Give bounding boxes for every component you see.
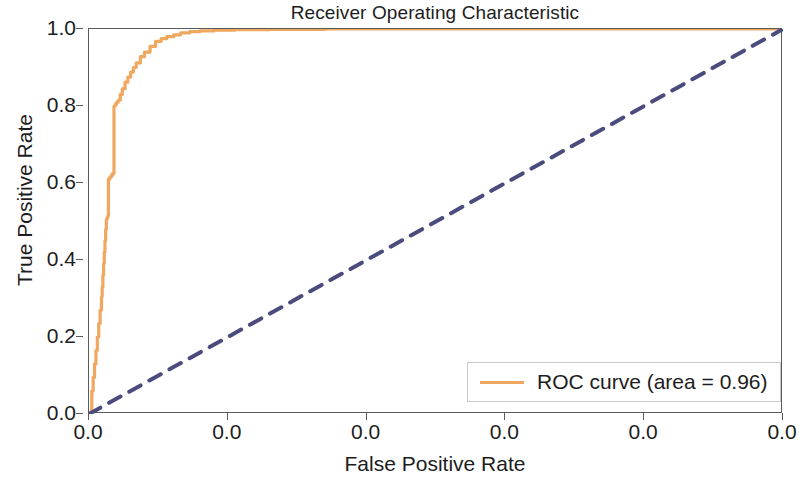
x-tick-mark — [366, 413, 367, 420]
x-tick-mark — [88, 413, 89, 420]
x-tick-mark — [643, 413, 644, 420]
y-tick-mark — [76, 182, 83, 183]
x-tick-label: 0.0 — [48, 420, 128, 444]
y-tick-mark — [76, 105, 83, 106]
chart-title: Receiver Operating Characteristic — [88, 2, 782, 24]
x-tick-label: 0.0 — [742, 420, 800, 444]
y-axis-tick-labels: 0.00.20.40.60.81.0 — [14, 28, 76, 413]
y-tick-label: 0.2 — [20, 324, 76, 348]
legend-line-swatch-roc-curve — [480, 381, 524, 384]
plot-svg — [89, 29, 783, 414]
x-axis-tick-labels: 0.00.00.00.00.00.0 — [88, 420, 782, 450]
x-tick-mark — [227, 413, 228, 420]
y-tick-label: 0.4 — [20, 247, 76, 271]
y-tick-label: 1.0 — [20, 16, 76, 40]
roc-chart-figure: Receiver Operating Characteristic True P… — [0, 0, 800, 483]
plot-area — [88, 28, 782, 413]
y-tick-mark — [76, 413, 83, 414]
x-tick-label: 0.0 — [464, 420, 544, 444]
y-tick-label: 0.8 — [20, 93, 76, 117]
x-tick-label: 0.0 — [326, 420, 406, 444]
series-line-chance-diagonal — [89, 29, 783, 414]
x-axis-label: False Positive Rate — [88, 452, 782, 476]
y-tick-mark — [76, 259, 83, 260]
y-tick-mark — [76, 336, 83, 337]
x-tick-label: 0.0 — [603, 420, 683, 444]
legend-label-roc-curve: ROC curve (area = 0.96) — [537, 370, 768, 394]
y-tick-label: 0.6 — [20, 170, 76, 194]
chart-legend: ROC curve (area = 0.96) — [467, 362, 781, 402]
x-tick-label: 0.0 — [187, 420, 267, 444]
x-tick-mark — [504, 413, 505, 420]
x-tick-mark — [782, 413, 783, 420]
y-tick-mark — [76, 28, 83, 29]
